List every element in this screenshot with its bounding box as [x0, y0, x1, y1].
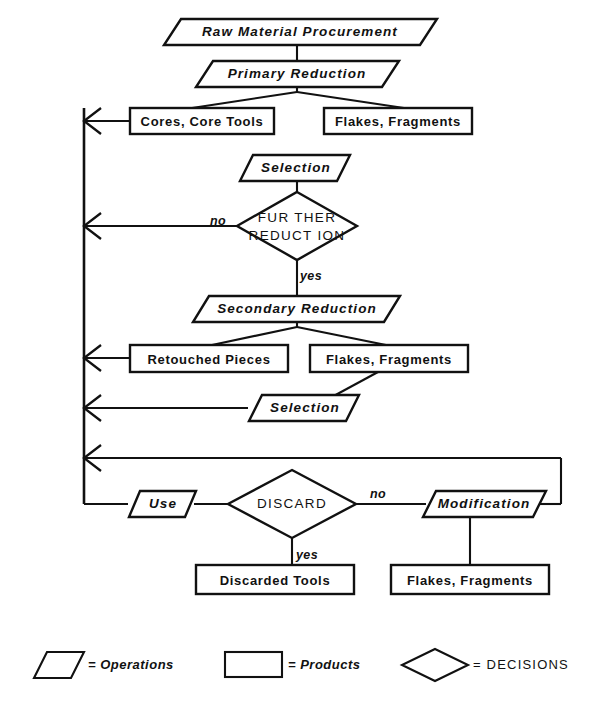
- flowchart-diagram: Raw Material Procurement Primary Reducti…: [0, 0, 594, 724]
- connector-secondary-to-flakes-mid: [297, 327, 386, 345]
- label-discard-no: no: [370, 488, 386, 501]
- label-flakes-fragments-mid: Flakes, Fragments: [326, 353, 452, 366]
- connector-primary-to-flakes-top: [297, 92, 404, 108]
- label-discarded-tools: Discarded Tools: [220, 574, 331, 587]
- label-further-reduction-yes: yes: [300, 270, 322, 283]
- label-flakes-fragments-top: Flakes, Fragments: [335, 115, 461, 128]
- label-modification: Modification: [438, 497, 531, 511]
- label-cores-core-tools: Cores, Core Tools: [141, 115, 264, 128]
- label-further-reduction-line1: FUR THER: [258, 211, 336, 225]
- connector-primary-to-cores: [192, 92, 297, 108]
- legend-operations-label: = Operations: [88, 658, 174, 671]
- label-discard-yes: yes: [296, 549, 318, 562]
- label-further-reduction-no: no: [210, 215, 226, 228]
- legend-products-label: = Products: [288, 658, 361, 671]
- label-secondary-reduction: Secondary Reduction: [217, 302, 377, 316]
- label-primary-reduction: Primary Reduction: [228, 67, 367, 81]
- legend-operations-shape: [34, 652, 84, 678]
- label-discard: DISCARD: [257, 497, 327, 511]
- connector-secondary-to-retouched: [212, 327, 297, 345]
- label-further-reduction-line2: REDUCT ION: [249, 229, 346, 243]
- label-selection-lower: Selection: [270, 401, 340, 415]
- legend-decisions-shape: [402, 649, 468, 681]
- label-raw-material-procurement: Raw Material Procurement: [202, 25, 398, 39]
- label-use: Use: [149, 497, 177, 511]
- flowchart-canvas: [0, 0, 594, 724]
- label-selection-upper: Selection: [261, 161, 331, 175]
- label-retouched-pieces: Retouched Pieces: [147, 353, 270, 366]
- node-further-reduction-decision[interactable]: [237, 192, 357, 260]
- legend-products-shape: [225, 652, 282, 677]
- label-flakes-fragments-bottom: Flakes, Fragments: [407, 574, 533, 587]
- legend-decisions-label: = DECISIONS: [473, 658, 569, 671]
